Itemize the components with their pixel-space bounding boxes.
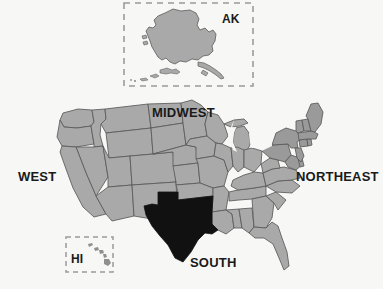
region-label-midwest: MIDWEST bbox=[152, 106, 215, 119]
region-label-south: SOUTH bbox=[190, 256, 237, 269]
state-michigan-up bbox=[224, 119, 248, 127]
region-label-northeast: NORTHEAST bbox=[296, 170, 379, 183]
alaska-shape bbox=[130, 9, 224, 82]
state-indiana bbox=[231, 147, 244, 172]
state-arkansas bbox=[212, 186, 229, 212]
map-canvas bbox=[0, 0, 383, 289]
state-florida bbox=[249, 222, 289, 270]
state-arizona bbox=[96, 185, 134, 221]
state-rhode-island bbox=[307, 139, 312, 146]
state-colorado bbox=[130, 152, 176, 185]
state-wyoming bbox=[106, 128, 153, 158]
state-kansas bbox=[173, 163, 200, 185]
us-regions-map: WEST MIDWEST NORTHEAST SOUTH AK HI bbox=[0, 0, 383, 289]
hawaii-shape bbox=[88, 243, 111, 266]
state-ohio bbox=[244, 148, 262, 172]
state-washington bbox=[60, 109, 94, 128]
region-label-west: WEST bbox=[18, 170, 56, 183]
inset-label-hawaii: HI bbox=[71, 253, 83, 265]
inset-label-alaska: AK bbox=[222, 13, 239, 25]
state-kentucky bbox=[231, 172, 266, 190]
